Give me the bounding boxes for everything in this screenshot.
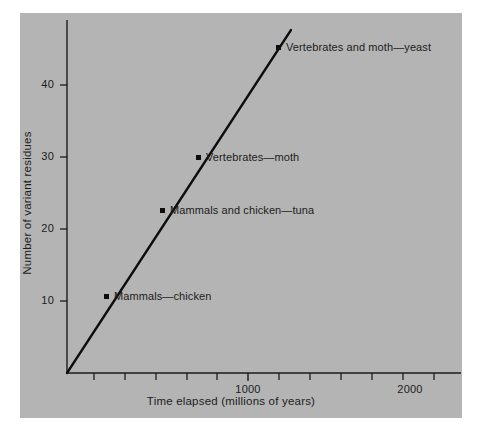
annotation-vertebrates-and-moth-yeast: Vertebrates and moth—yeast xyxy=(286,41,431,53)
data-point-marker xyxy=(160,208,165,213)
x-tick-label-1000: 1000 xyxy=(218,383,278,395)
annotation-mammals-chicken: Mammals—chicken xyxy=(114,290,211,302)
annotation-vertebrates-moth: Vertebrates—moth xyxy=(206,151,299,163)
y-axis-ticks xyxy=(60,85,67,301)
data-point-marker xyxy=(104,294,109,299)
figure-container: 10 20 30 40 1000 2000 Mammals—chicken Ma… xyxy=(0,0,482,431)
data-point-marker xyxy=(196,155,201,160)
x-tick-label-2000: 2000 xyxy=(380,383,440,395)
data-line-series xyxy=(67,30,291,373)
x-axis-title: Time elapsed (millions of years) xyxy=(0,395,462,407)
y-tick-label-20: 20 xyxy=(14,222,54,234)
data-point-marker xyxy=(276,45,281,50)
data-point-markers xyxy=(104,45,281,299)
y-tick-label-30: 30 xyxy=(14,150,54,162)
y-tick-label-10: 10 xyxy=(14,294,54,306)
x-axis-ticks xyxy=(94,373,434,381)
y-axis-title: Number of variant residues xyxy=(21,103,33,303)
annotation-mammals-and-chicken-tuna: Mammals and chicken—tuna xyxy=(170,204,314,216)
y-tick-label-40: 40 xyxy=(14,78,54,90)
